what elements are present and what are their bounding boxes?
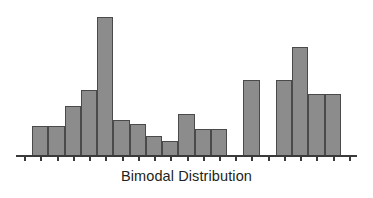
x-axis-tick bbox=[268, 157, 270, 161]
bar bbox=[32, 126, 48, 156]
x-axis-tick bbox=[333, 157, 335, 161]
bar bbox=[81, 90, 97, 156]
bar bbox=[308, 94, 324, 156]
bar bbox=[162, 141, 178, 156]
x-axis-tick bbox=[300, 157, 302, 161]
x-axis-tick bbox=[316, 157, 318, 161]
x-axis-tick bbox=[24, 157, 26, 161]
bar-series bbox=[16, 10, 357, 156]
x-axis-tick bbox=[105, 157, 107, 161]
x-axis-tick bbox=[203, 157, 205, 161]
bar bbox=[211, 129, 227, 156]
plot-area bbox=[16, 10, 357, 156]
chart-title: Bimodal Distribution bbox=[0, 168, 373, 184]
x-axis-tick bbox=[349, 157, 351, 161]
bar bbox=[130, 124, 146, 156]
x-axis-tick bbox=[284, 157, 286, 161]
bar bbox=[65, 106, 81, 156]
x-axis-tick bbox=[138, 157, 140, 161]
x-axis-tick bbox=[251, 157, 253, 161]
x-axis-tick bbox=[40, 157, 42, 161]
x-axis-tick bbox=[57, 157, 59, 161]
bimodal-distribution-chart: Bimodal Distribution bbox=[0, 0, 373, 198]
bar bbox=[276, 80, 292, 156]
x-axis-tick bbox=[219, 157, 221, 161]
bar bbox=[292, 47, 308, 156]
bar bbox=[97, 17, 113, 156]
bar bbox=[178, 114, 194, 156]
bar bbox=[243, 80, 259, 156]
x-axis-tick bbox=[73, 157, 75, 161]
x-axis-tick bbox=[154, 157, 156, 161]
x-axis-tick bbox=[122, 157, 124, 161]
x-axis-tick bbox=[235, 157, 237, 161]
bar bbox=[195, 129, 211, 156]
bar bbox=[146, 136, 162, 156]
bar bbox=[113, 120, 129, 156]
bar bbox=[48, 126, 64, 156]
x-axis-tick bbox=[89, 157, 91, 161]
x-axis-tick bbox=[170, 157, 172, 161]
x-axis-tick bbox=[187, 157, 189, 161]
bar bbox=[325, 94, 341, 156]
